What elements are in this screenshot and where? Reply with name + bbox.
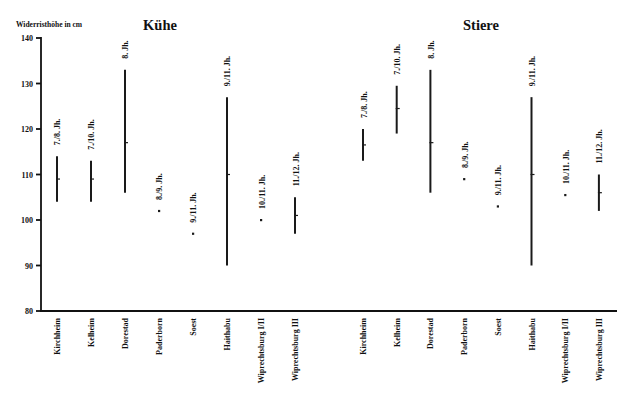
x-tick-label: Haithabu — [528, 317, 537, 350]
x-tick-label: Wiprechtsburg III — [595, 318, 604, 381]
period-label: 7./10. Jh. — [393, 44, 402, 75]
data-point — [192, 233, 194, 235]
x-tick-label: Kirchheim — [359, 318, 368, 355]
y-tick-label: 80 — [25, 307, 33, 316]
period-label: 8. Jh. — [427, 40, 436, 58]
period-label: 9./11. Jh. — [494, 165, 503, 195]
series-dorestad: 8. Jh.Dorestad — [121, 40, 131, 349]
data-point — [564, 194, 566, 196]
period-label: 7./8. Jh. — [360, 91, 369, 118]
period-label: 8./9. Jh. — [461, 141, 470, 168]
period-label: 8./9. Jh. — [156, 173, 165, 200]
series-haithabu: 9./11. Jh.Haithabu — [223, 56, 233, 351]
series-wiprechtsburg-iii: 11./12. Jh.Wiprechtsburg III — [595, 129, 605, 381]
series-paderborn: 8./9. Jh.Paderborn — [155, 173, 165, 355]
x-tick-label: Dorestad — [121, 317, 130, 349]
period-label: 9./11. Jh. — [224, 56, 233, 86]
y-axis-label: Widerristhöhe in cm — [16, 20, 83, 29]
panel-title-kuehe: Kühe — [143, 17, 177, 33]
x-tick-label: Kirchheim — [53, 318, 62, 355]
y-tick-label: 120 — [21, 125, 33, 134]
series-wiprechtsburg-i-ii: 10./11. Jh.Wiprechtsburg I/II — [561, 150, 571, 384]
series-wiprechtsburg-iii: 11./12. Jh.Wiprechtsburg III — [291, 152, 301, 381]
data-point — [260, 219, 262, 221]
series-kelheim: 7./10. Jh.Kelheim — [87, 119, 97, 347]
x-tick-label: Wiprechtsburg I/II — [257, 318, 266, 383]
x-tick-label: Haithabu — [223, 317, 232, 350]
period-label: 9./11. Jh. — [190, 192, 199, 222]
x-tick-label: Dorestad — [426, 317, 435, 349]
x-tick-label: Kelheim — [393, 318, 402, 347]
series-haithabu: 9./11. Jh.Haithabu — [528, 56, 538, 351]
period-label: 10./11. Jh. — [562, 150, 571, 184]
series-dorestad: 8. Jh.Dorestad — [426, 40, 436, 349]
series-kirchheim: 7./8. Jh.Kirchheim — [359, 91, 369, 354]
period-label: 11./12. Jh. — [595, 129, 604, 163]
data-point — [158, 210, 160, 212]
panel-kuehe: 7./8. Jh.Kirchheim7./10. Jh.Kelheim8. Jh… — [53, 40, 301, 383]
y-tick-label: 90 — [25, 262, 33, 271]
panel-title-stiere: Stiere — [463, 17, 500, 33]
series-soest: 9./11. Jh.Soest — [189, 192, 199, 335]
y-tick-label: 130 — [21, 80, 33, 89]
period-label: 11./12. Jh. — [292, 152, 301, 186]
panel-stiere: 7./8. Jh.Kirchheim7./10. Jh.Kelheim8. Jh… — [359, 40, 604, 383]
period-label: 10./11. Jh. — [258, 175, 267, 209]
series-kirchheim: 7./8. Jh.Kirchheim — [53, 119, 63, 355]
y-tick-label: 110 — [21, 171, 33, 180]
period-label: 7./10. Jh. — [88, 119, 97, 150]
series-paderborn: 8./9. Jh.Paderborn — [460, 141, 470, 355]
x-tick-label: Soest — [494, 318, 503, 336]
x-tick-label: Paderborn — [155, 317, 164, 354]
x-tick-label: Kelheim — [87, 318, 96, 347]
x-tick-label: Soest — [189, 318, 198, 336]
x-tick-label: Paderborn — [460, 317, 469, 354]
period-label: 9./11. Jh. — [528, 56, 537, 86]
chart-canvas: Widerristhöhe in cm Kühe Stiere 80901001… — [0, 0, 629, 401]
x-tick-label: Wiprechtsburg III — [291, 318, 300, 381]
data-point — [497, 205, 499, 207]
x-tick-label: Wiprechtsburg I/II — [561, 318, 570, 383]
y-ticks: 8090100110120130140 — [21, 34, 41, 316]
y-tick-label: 140 — [21, 34, 33, 43]
data-point — [463, 178, 465, 180]
y-tick-label: 100 — [21, 216, 33, 225]
series-wiprechtsburg-i-ii: 10./11. Jh.Wiprechtsburg I/II — [257, 175, 267, 384]
series-kelheim: 7./10. Jh.Kelheim — [393, 44, 403, 347]
period-label: 8. Jh. — [122, 40, 131, 58]
period-label: 7./8. Jh. — [54, 119, 63, 146]
